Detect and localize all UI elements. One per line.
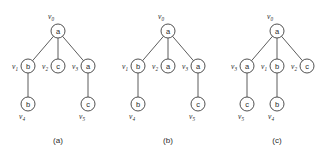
- node-letter: b: [26, 100, 30, 109]
- node-vertex-label: v5: [189, 112, 195, 122]
- tree-b: av0bv1av2av3bv4cv5(b): [122, 12, 205, 145]
- tree-node-a-v0: av0: [48, 12, 65, 38]
- tree-node-b-v0: av0: [158, 12, 175, 38]
- node-vertex-label: v5: [79, 112, 85, 122]
- node-vertex-label: v1: [122, 62, 128, 72]
- tree-node-c-v2: cv2: [291, 59, 314, 73]
- tree-node-a-v4: bv4: [19, 97, 35, 122]
- tree-edge: [173, 36, 194, 60]
- tree-node-a-v5: cv5: [79, 97, 95, 122]
- tree-edge: [63, 36, 84, 60]
- node-vertex-label: v1: [12, 62, 18, 72]
- tree-node-c-v5: cv5: [238, 97, 254, 122]
- node-letter: c: [245, 100, 249, 109]
- node-vertex-label: v0: [48, 12, 54, 22]
- tree-caption: (b): [163, 136, 173, 145]
- tree-node-a-v2: cv2: [42, 59, 65, 73]
- node-letter: b: [275, 100, 279, 109]
- tree-node-a-v3: av3: [72, 59, 95, 73]
- node-vertex-label: v2: [152, 62, 158, 72]
- tree-node-c-v4: bv4: [268, 97, 284, 122]
- tree-node-c-v1: bv1: [261, 59, 284, 73]
- tree-node-b-v2: av2: [152, 59, 175, 73]
- node-vertex-label: v5: [238, 112, 244, 122]
- tree-node-a-v1: bv1: [12, 59, 35, 73]
- node-vertex-label: v3: [182, 62, 188, 72]
- tree-node-b-v1: bv1: [122, 59, 145, 73]
- tree-node-c-v3: av3: [231, 59, 254, 73]
- tree-a: av0bv1cv2av3bv4cv5(a): [12, 12, 95, 145]
- tree-edge: [252, 36, 273, 60]
- node-vertex-label: v3: [72, 62, 78, 72]
- node-letter: c: [305, 62, 309, 71]
- node-vertex-label: v3: [231, 62, 237, 72]
- tree-node-b-v4: bv4: [129, 97, 145, 122]
- node-letter: b: [275, 62, 279, 71]
- tree-node-c-v0: av0: [267, 12, 284, 38]
- node-vertex-label: v4: [129, 112, 135, 122]
- node-vertex-label: v2: [42, 62, 48, 72]
- node-vertex-label: v1: [261, 62, 267, 72]
- tree-figure: av0bv1cv2av3bv4cv5(a)av0bv1av2av3bv4cv5(…: [0, 0, 326, 153]
- node-letter: b: [26, 62, 30, 71]
- node-vertex-label: v2: [291, 62, 297, 72]
- node-letter: c: [196, 100, 200, 109]
- tree-node-b-v5: cv5: [189, 97, 205, 122]
- node-vertex-label: v4: [19, 112, 25, 122]
- node-letter: c: [56, 62, 60, 71]
- tree-edge: [33, 36, 54, 60]
- tree-edge: [143, 36, 164, 60]
- tree-c: av0av3bv1cv2cv5bv4(c): [231, 12, 314, 145]
- node-letter: c: [86, 100, 90, 109]
- node-vertex-label: v0: [158, 12, 164, 22]
- tree-caption: (c): [272, 136, 282, 145]
- node-letter: b: [136, 100, 140, 109]
- node-vertex-label: v4: [268, 112, 274, 122]
- tree-node-b-v3: av3: [182, 59, 205, 73]
- node-vertex-label: v0: [267, 12, 273, 22]
- tree-diagram-canvas: av0bv1cv2av3bv4cv5(a)av0bv1av2av3bv4cv5(…: [0, 0, 326, 153]
- node-letter: b: [136, 62, 140, 71]
- tree-edge: [282, 36, 303, 60]
- tree-caption: (a): [53, 136, 63, 145]
